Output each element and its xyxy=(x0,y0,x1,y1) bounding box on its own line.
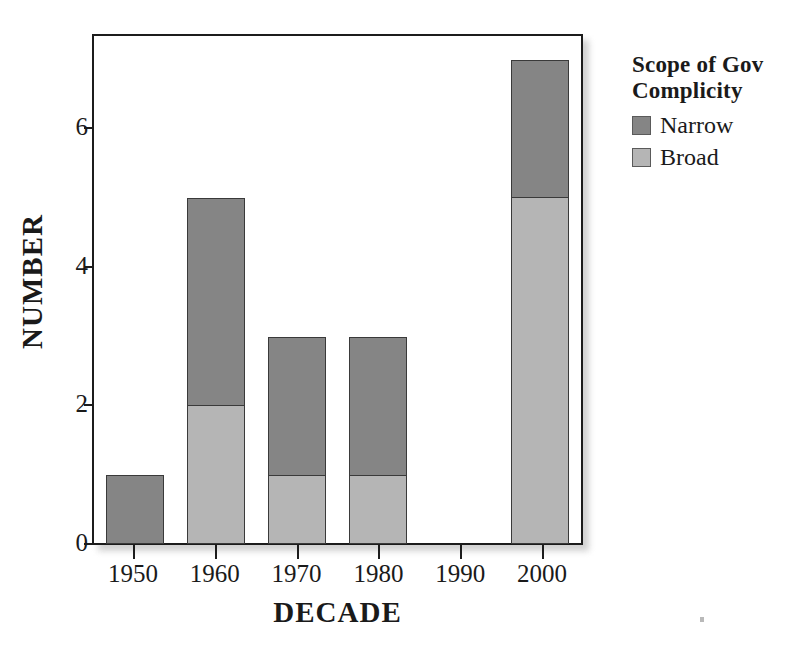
x-tick-label-1970: 1970 xyxy=(256,558,338,592)
bar-segment-narrow-1970[interactable] xyxy=(268,337,326,476)
x-tick-label-1990: 1990 xyxy=(419,558,501,592)
x-tick-mark xyxy=(542,545,544,559)
legend-swatch-narrow-icon xyxy=(632,116,651,135)
bar-slot-1990 xyxy=(419,36,500,543)
bar-slot-1950 xyxy=(94,36,175,543)
bar-segment-broad-2000[interactable] xyxy=(511,197,569,544)
plot-area: 0246 xyxy=(92,34,583,545)
bar-slot-1970 xyxy=(256,36,337,543)
y-axis-title: NUMBER xyxy=(16,172,49,392)
x-tick-mark xyxy=(215,545,217,559)
legend-title-line-1: Scope of Gov xyxy=(632,52,792,78)
bar-stack-1960[interactable] xyxy=(187,198,245,543)
x-tick-label-1950: 1950 xyxy=(92,558,174,592)
bar-stack-1970[interactable] xyxy=(268,337,326,543)
legend: Scope of Gov Complicity Narrow Broad xyxy=(632,52,792,176)
x-tick-label-1980: 1980 xyxy=(337,558,419,592)
y-tick-label: 2 xyxy=(76,391,89,416)
bar-segment-narrow-2000[interactable] xyxy=(511,60,569,199)
chart-page: 0246 195019601970198019902000 NUMBER DEC… xyxy=(0,0,793,655)
legend-label-broad: Broad xyxy=(660,144,719,170)
y-tick-label: 4 xyxy=(76,253,89,278)
bar-slot-2000 xyxy=(500,36,581,543)
x-tick-mark xyxy=(378,545,380,559)
bar-slot-1980 xyxy=(338,36,419,543)
legend-title-line-2: Complicity xyxy=(632,78,792,104)
x-tick-label-2000: 2000 xyxy=(501,558,583,592)
x-axis-tick-labels: 195019601970198019902000 xyxy=(92,558,583,592)
legend-swatch-broad-icon xyxy=(632,148,651,167)
x-axis-title: DECADE xyxy=(92,596,583,629)
bar-segment-broad-1980[interactable] xyxy=(349,475,407,544)
x-tick-mark xyxy=(460,545,462,559)
bar-slot-1960 xyxy=(175,36,256,543)
legend-title: Scope of Gov Complicity xyxy=(632,52,792,104)
legend-item-narrow[interactable]: Narrow xyxy=(632,112,792,138)
plot-inner: 0246 xyxy=(94,36,581,543)
x-tick-mark xyxy=(133,545,135,559)
x-tick-label-1960: 1960 xyxy=(174,558,256,592)
legend-item-broad[interactable]: Broad xyxy=(632,144,792,170)
x-tick-mark xyxy=(297,545,299,559)
y-tick-label: 6 xyxy=(76,114,89,139)
bar-series-group xyxy=(94,36,581,543)
bar-stack-1950[interactable] xyxy=(106,475,164,543)
bar-segment-narrow-1960[interactable] xyxy=(187,198,245,406)
legend-label-narrow: Narrow xyxy=(660,112,733,138)
scan-artifact-speck xyxy=(700,617,704,622)
bar-segment-narrow-1980[interactable] xyxy=(349,337,407,476)
bar-segment-narrow-1950[interactable] xyxy=(106,475,164,544)
y-tick-label: 0 xyxy=(76,530,89,555)
bar-segment-broad-1970[interactable] xyxy=(268,475,326,544)
bar-segment-broad-1960[interactable] xyxy=(187,405,245,544)
bar-stack-1980[interactable] xyxy=(349,337,407,543)
bar-stack-2000[interactable] xyxy=(511,60,569,543)
